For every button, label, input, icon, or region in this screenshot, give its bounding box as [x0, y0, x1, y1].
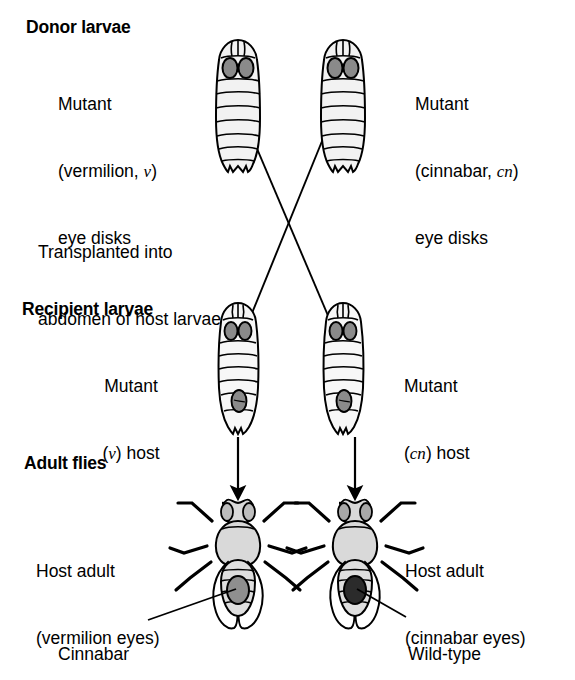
development-arrows: [238, 437, 355, 492]
adult-section-heading: Adult flies: [24, 452, 106, 474]
eye-disk-right: [344, 58, 359, 78]
transplanted-eye-structure: [344, 576, 366, 604]
adult-fly-right: [287, 500, 423, 629]
eye-disk-right: [239, 58, 254, 78]
recipient-right-label: Mutant (cn) host: [404, 330, 470, 509]
adult-right-label-line1: Host adult: [405, 560, 526, 582]
compound-eye-right: [243, 503, 255, 521]
diagram-canvas: Donor larvae Mutant (vermilion, v) eye d…: [0, 0, 575, 680]
donor-larva-left: [216, 40, 260, 172]
donor-right-label-line1: Mutant: [415, 93, 519, 115]
donor-right-allele-pre: (cinnabar,: [415, 161, 497, 181]
eye-disk-left: [328, 58, 343, 78]
eye-disk-left: [223, 58, 238, 78]
donor-right-label: Mutant (cinnabar, cn) eye disks: [415, 48, 519, 295]
donor-left-allele-symbol: v: [144, 162, 152, 181]
eye-disk-right: [344, 322, 357, 340]
cinnabar-caption-line1: Cinnabar: [58, 643, 148, 665]
wildtype-structure-caption: Wild-type colored eye structure: [408, 598, 498, 680]
donor-section-heading: Donor larvae: [26, 16, 131, 38]
donor-left-label-line2: (vermilion, v): [58, 160, 157, 183]
recipient-right-allele-symbol: cn: [410, 444, 426, 463]
transplanted-eye-structure: [227, 576, 249, 604]
recipient-right-label-line2: (cn) host: [404, 442, 470, 465]
recipient-left-label-line1: Mutant: [72, 375, 190, 397]
recipient-left-allele-post: ) host: [116, 443, 160, 463]
host-larva-left: [219, 303, 259, 434]
eye-disk-left: [225, 322, 238, 340]
compound-eye-left: [338, 503, 350, 521]
adult-left-label-line1: Host adult: [36, 560, 160, 582]
donor-right-label-line2: (cinnabar, cn): [415, 160, 519, 183]
recipient-section-heading: Recipient larvae: [22, 298, 153, 320]
adult-fly-left: [170, 500, 306, 629]
recipient-left-allele-symbol: v: [108, 444, 116, 463]
donor-right-allele-post: ): [513, 161, 519, 181]
recipient-right-allele-post: ) host: [426, 443, 470, 463]
eye-disk-left: [330, 322, 343, 340]
donor-left-label-line1: Mutant: [58, 93, 157, 115]
compound-eye-left: [221, 503, 233, 521]
recipient-right-label-line1: Mutant: [404, 375, 470, 397]
donor-left-allele-pre: (vermilion,: [58, 161, 144, 181]
host-larva-right: [324, 303, 364, 434]
compound-eye-right: [360, 503, 372, 521]
recipient-left-label: Mutant (v) host: [72, 330, 190, 509]
transplant-note-line1: Transplanted into: [38, 241, 221, 263]
donor-right-allele-symbol: cn: [497, 162, 513, 181]
donor-larva-right: [321, 40, 365, 172]
eye-disk-right: [239, 322, 252, 340]
donor-left-allele-post: ): [151, 161, 157, 181]
donor-right-label-line3: eye disks: [415, 227, 519, 249]
wildtype-caption-line1: Wild-type: [408, 643, 498, 665]
cinnabar-structure-caption: Cinnabar colored eye structure: [58, 598, 148, 680]
